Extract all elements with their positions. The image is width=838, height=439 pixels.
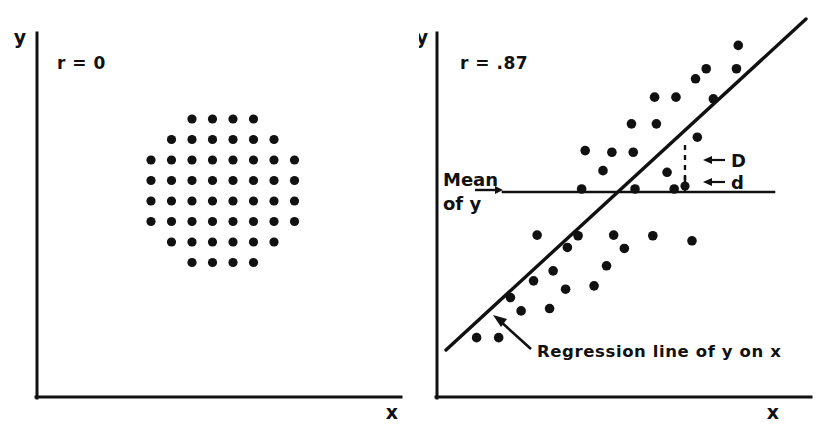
scatter-point bbox=[732, 64, 742, 74]
scatter-point bbox=[249, 155, 258, 164]
scatter-point bbox=[208, 155, 217, 164]
mean-of-y-label-line2: of y bbox=[443, 193, 481, 214]
scatter-point bbox=[187, 114, 196, 123]
scatter-point bbox=[249, 114, 258, 123]
scatter-point bbox=[208, 114, 217, 123]
scatter-point bbox=[693, 132, 703, 142]
regression-callout-arrow bbox=[493, 315, 531, 349]
scatter-point bbox=[628, 147, 638, 157]
scatter-dots-no-correlation bbox=[146, 114, 299, 267]
x-axis-label: x bbox=[386, 401, 398, 423]
scatter-point bbox=[290, 155, 299, 164]
mean-of-y-label-line1: Mean bbox=[443, 169, 498, 190]
scatter-point bbox=[228, 155, 237, 164]
scatter-point bbox=[290, 217, 299, 226]
scatter-point bbox=[228, 135, 237, 144]
scatter-point bbox=[290, 196, 299, 205]
scatter-point bbox=[650, 92, 660, 102]
scatter-point bbox=[269, 155, 278, 164]
x-axis-label: x bbox=[767, 401, 779, 423]
scatter-point bbox=[208, 237, 217, 246]
scatter-point bbox=[545, 304, 555, 314]
scatter-point bbox=[516, 306, 526, 316]
scatter-point bbox=[208, 176, 217, 185]
scatter-point bbox=[494, 333, 504, 343]
scatter-point bbox=[701, 64, 711, 74]
panel-r-zero: y x r = 0 bbox=[0, 0, 419, 439]
scatter-point bbox=[630, 184, 640, 194]
scatter-point bbox=[167, 237, 176, 246]
scatter-point bbox=[627, 119, 637, 129]
scatter-point bbox=[652, 119, 662, 129]
scatter-point bbox=[709, 94, 719, 104]
deviation-d-arrow bbox=[703, 178, 725, 186]
scatter-point bbox=[648, 231, 658, 241]
scatter-point bbox=[167, 176, 176, 185]
scatter-point bbox=[228, 176, 237, 185]
scatter-point bbox=[548, 266, 558, 276]
scatter-point bbox=[228, 114, 237, 123]
axes-left bbox=[36, 33, 401, 398]
scatter-point bbox=[269, 196, 278, 205]
scatter-point bbox=[620, 244, 630, 254]
scatter-point bbox=[208, 196, 217, 205]
deviation-d-label: d bbox=[731, 172, 744, 193]
scatter-point bbox=[187, 196, 196, 205]
scatter-point bbox=[146, 196, 155, 205]
scatter-point bbox=[146, 155, 155, 164]
scatter-point bbox=[187, 237, 196, 246]
scatter-point bbox=[146, 217, 155, 226]
scatter-point bbox=[691, 74, 701, 84]
correlation-label-left: r = 0 bbox=[57, 53, 106, 73]
scatter-point bbox=[577, 184, 587, 194]
scatter-point bbox=[228, 237, 237, 246]
scatter-point bbox=[187, 176, 196, 185]
scatter-point bbox=[167, 196, 176, 205]
scatter-point bbox=[563, 243, 573, 253]
scatter-point bbox=[602, 261, 612, 271]
scatter-point bbox=[733, 41, 743, 51]
scatter-point bbox=[249, 258, 258, 267]
scatter-point bbox=[589, 281, 599, 291]
scatter-point bbox=[146, 176, 155, 185]
deviation-D-label: D bbox=[731, 150, 746, 171]
scatter-point bbox=[167, 155, 176, 164]
scatter-point bbox=[228, 196, 237, 205]
scatter-point bbox=[249, 237, 258, 246]
y-axis-label: y bbox=[14, 26, 27, 48]
scatter-point bbox=[249, 135, 258, 144]
scatter-point bbox=[529, 276, 539, 286]
scatter-point bbox=[187, 217, 196, 226]
scatter-point bbox=[167, 217, 176, 226]
scatter-point bbox=[228, 217, 237, 226]
scatter-point bbox=[662, 168, 672, 178]
regression-line-caption: Regression line of y on x bbox=[537, 342, 781, 361]
scatter-point bbox=[687, 236, 697, 246]
scatter-point bbox=[208, 258, 217, 267]
scatter-point bbox=[561, 284, 571, 294]
scatter-point bbox=[167, 135, 176, 144]
scatter-point bbox=[228, 258, 237, 267]
scatter-point bbox=[669, 184, 679, 194]
scatter-point bbox=[208, 135, 217, 144]
scatter-point bbox=[249, 176, 258, 185]
scatter-point bbox=[269, 176, 278, 185]
scatter-point bbox=[607, 147, 617, 157]
deviation-D-arrow bbox=[703, 156, 725, 164]
scatter-point bbox=[187, 155, 196, 164]
correlation-label-right: r = .87 bbox=[460, 53, 528, 73]
scatter-point bbox=[609, 230, 619, 240]
scatter-point bbox=[187, 258, 196, 267]
scatter-point bbox=[532, 230, 542, 240]
scatter-point bbox=[269, 237, 278, 246]
scatter-point bbox=[598, 166, 608, 176]
scatter-point bbox=[269, 135, 278, 144]
scatter-point bbox=[573, 231, 583, 241]
scatter-point bbox=[472, 333, 482, 343]
scatter-point bbox=[249, 217, 258, 226]
scatter-point bbox=[580, 146, 590, 156]
correlation-figure: y x r = 0 y x r = .87 Mean of y bbox=[0, 0, 838, 439]
scatter-point bbox=[249, 196, 258, 205]
scatter-point bbox=[269, 217, 278, 226]
scatter-point bbox=[187, 135, 196, 144]
